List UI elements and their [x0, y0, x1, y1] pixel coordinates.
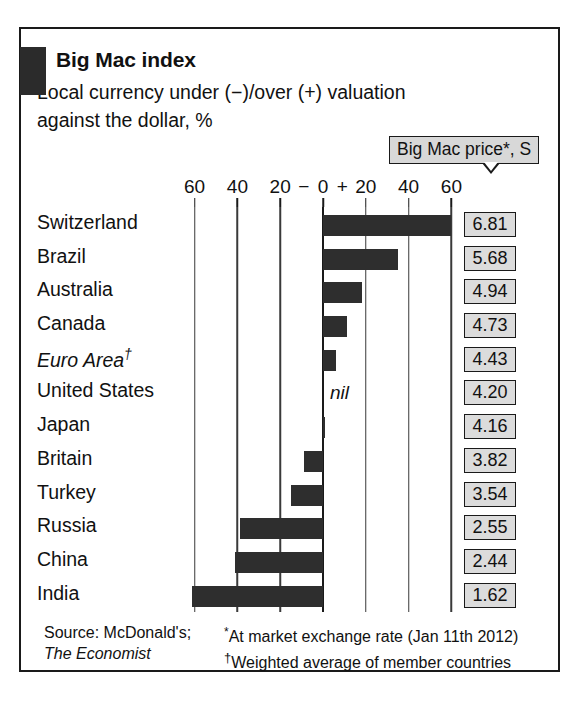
price-box: 2.44 — [464, 549, 516, 574]
axis-tick-label: 60 — [441, 176, 462, 198]
value-bar — [323, 215, 451, 236]
axis-tick-mark — [365, 198, 367, 207]
axis-tick-label: 40 — [227, 176, 248, 198]
axis-tick-label: 40 — [398, 176, 419, 198]
chart-row: China2.44 — [0, 544, 579, 578]
chart-row: Australia4.94 — [0, 274, 579, 308]
accent-block — [20, 47, 46, 95]
value-bar — [192, 586, 323, 607]
country-label: China — [37, 548, 88, 571]
axis-tick-label: 20 — [355, 176, 376, 198]
footnote-dagger: †Weighted average of member countries — [224, 647, 518, 673]
price-box: 1.62 — [464, 583, 516, 608]
value-bar — [304, 451, 323, 472]
country-label: Brazil — [37, 245, 86, 268]
dagger-marker: † — [124, 346, 132, 362]
chart-row: Japan4.16 — [0, 409, 579, 443]
nil-annotation: nil — [330, 382, 349, 404]
asterisk-marker: * — [224, 625, 229, 639]
axis-tick-label: 20 — [270, 176, 291, 198]
subtitle-line-2: against the dollar, % — [37, 106, 406, 134]
country-label: Euro Area† — [37, 346, 132, 372]
page-title: Big Mac index — [56, 48, 196, 72]
price-box: 4.94 — [464, 279, 516, 304]
value-bar — [323, 316, 347, 337]
value-bar — [291, 485, 323, 506]
source-line-2: The Economist — [44, 643, 191, 664]
country-label: India — [37, 582, 79, 605]
axis-tick-mark — [322, 198, 324, 207]
value-bar — [323, 249, 398, 270]
price-box: 4.43 — [464, 347, 516, 372]
chart-row: Turkey3.54 — [0, 477, 579, 511]
price-box: 6.81 — [464, 212, 516, 237]
price-box: 3.82 — [464, 448, 516, 473]
price-box: 4.20 — [464, 380, 516, 405]
country-label: Canada — [37, 312, 105, 335]
price-box: 5.68 — [464, 246, 516, 271]
chart-row: Canada4.73 — [0, 308, 579, 342]
axis-tick-label: 0 — [318, 176, 329, 198]
chart-row: India1.62 — [0, 578, 579, 612]
chart-row: Switzerland6.81 — [0, 207, 579, 241]
chart-rows: Switzerland6.81Brazil5.68Australia4.94Ca… — [0, 207, 579, 611]
price-callout-label: Big Mac price*, S — [389, 136, 539, 164]
footnotes: *At market exchange rate (Jan 11th 2012)… — [224, 622, 518, 674]
country-label: Russia — [37, 514, 97, 537]
chart-row: Brazil5.68 — [0, 241, 579, 275]
price-box: 4.16 — [464, 414, 516, 439]
x-axis-labels: 6040200204060−+ — [0, 176, 579, 198]
axis-tick-mark — [237, 198, 239, 207]
chart-subtitle: Local currency under (−)/over (+) valuat… — [37, 78, 406, 134]
subtitle-line-1: Local currency under (−)/over (+) valuat… — [37, 78, 406, 106]
footnote-star: *At market exchange rate (Jan 11th 2012) — [224, 622, 518, 647]
price-box: 3.54 — [464, 482, 516, 507]
country-label: Japan — [37, 413, 90, 436]
axis-minus-sign: − — [298, 176, 309, 198]
axis-tick-mark — [194, 198, 196, 207]
callout-tail-inner-icon — [484, 162, 498, 171]
value-bar — [323, 350, 336, 371]
axis-plus-sign: + — [337, 176, 348, 198]
price-box: 2.55 — [464, 515, 516, 540]
chart-row: Britain3.82 — [0, 443, 579, 477]
country-label: Switzerland — [37, 211, 138, 234]
axis-tick-mark — [408, 198, 410, 207]
axis-tick-mark — [279, 198, 281, 207]
value-bar — [235, 552, 323, 573]
chart-row: Russia2.55 — [0, 510, 579, 544]
chart-row: Euro Area†4.43 — [0, 342, 579, 376]
dagger-marker: † — [224, 650, 231, 665]
source-line-1: Source: McDonald's; — [44, 622, 191, 643]
source-text: Source: McDonald's; The Economist — [44, 622, 191, 664]
value-bar — [240, 518, 323, 539]
country-label: Australia — [37, 278, 113, 301]
value-bar — [323, 282, 362, 303]
chart-row: United Statesnil4.20 — [0, 375, 579, 409]
axis-tick-label: 60 — [184, 176, 205, 198]
country-label: Turkey — [37, 481, 96, 504]
price-box: 4.73 — [464, 313, 516, 338]
country-label: Britain — [37, 447, 92, 470]
country-label: United States — [37, 379, 154, 402]
axis-tick-mark — [451, 198, 453, 207]
value-bar — [323, 417, 325, 438]
